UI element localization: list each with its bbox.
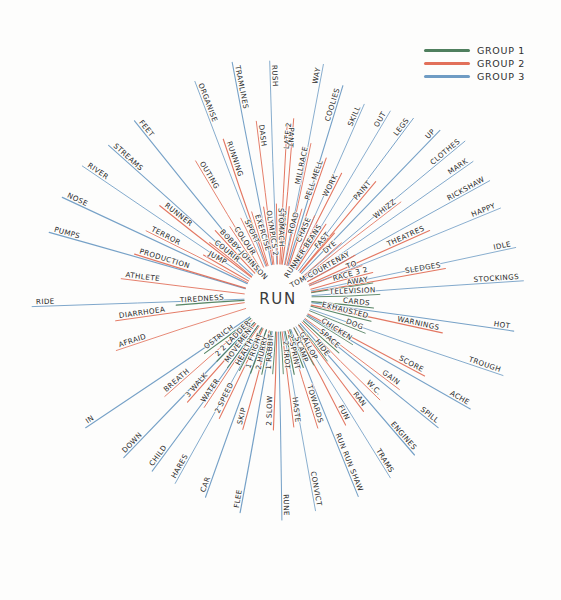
spoke-label: TRAMS	[374, 446, 396, 474]
spoke-label: RUSH	[270, 65, 280, 87]
spoke-label: ENGINES	[389, 420, 419, 452]
legend-label-group-3: GROUP 3	[477, 71, 525, 82]
spoke-label: NOSE	[66, 191, 90, 208]
diagram-canvas: RUN WAYCOOLIESSKILLOUTLEGSUPCLOTHESMARKR…	[0, 0, 561, 600]
spoke-label: WORK	[321, 173, 340, 199]
spoke-label: TROUGH	[467, 354, 503, 374]
spoke-label: PANT	[286, 127, 296, 148]
spoke-label: HASTE	[290, 396, 302, 423]
spoke-label: TIREDNESS	[179, 293, 225, 305]
spoke-label: STREAMS	[112, 141, 146, 172]
legend-label-group-1: GROUP 1	[477, 45, 525, 56]
spoke-line	[135, 254, 246, 288]
spoke-label: HAPPY	[470, 201, 497, 219]
legend-swatch-group-1	[424, 49, 470, 51]
spoke-label: FLEE	[232, 489, 244, 509]
radial-diagram-svg: RUN WAYCOOLIESSKILLOUTLEGSUPCLOTHESMARKR…	[0, 0, 561, 600]
legend: GROUP 1 GROUP 2 GROUP 3	[424, 44, 556, 83]
spoke-label: IN	[84, 413, 96, 425]
spoke-line	[305, 319, 399, 390]
spoke-label: RICKSHAW	[445, 175, 486, 203]
legend-swatch-group-2	[424, 62, 470, 64]
spoke-label: RUNE	[282, 494, 291, 516]
spoke-label: ACHE	[448, 388, 471, 407]
spoke-label: TERROR	[149, 224, 182, 247]
spoke-label: AFRAID	[117, 332, 147, 349]
legend-item-group-3: GROUP 3	[424, 70, 556, 83]
legend-label-group-2: GROUP 2	[477, 58, 525, 69]
spoke-label: RUNNING	[225, 140, 246, 178]
center-word-run: RUN	[259, 290, 296, 308]
legend-item-group-1: GROUP 1	[424, 44, 556, 57]
spoke-label: OUTING	[198, 160, 222, 191]
spoke-label: DIARRHOEA	[118, 305, 165, 320]
spoke-line	[121, 279, 244, 294]
spoke-line	[279, 332, 282, 520]
spoke-label: RUN RUN SHAW	[334, 432, 366, 493]
spoke-label: 2 SLOW	[264, 395, 274, 426]
spoke-label: RIDE	[36, 297, 55, 307]
spoke-label: TELEVISION	[328, 285, 376, 296]
legend-swatch-group-3	[424, 75, 470, 77]
spoke-label: TRAMLINES	[233, 64, 251, 110]
spoke-label: PUMPS	[53, 225, 81, 241]
spoke-label: COOLIES	[323, 87, 342, 123]
spoke-label: TOWARDS	[305, 383, 325, 424]
spoke-label: WAY	[310, 66, 322, 84]
spoke-label: MILLRACE	[293, 145, 310, 185]
legend-item-group-2: GROUP 2	[424, 57, 556, 70]
spoke-label: DOWN	[120, 430, 144, 454]
spoke-label: SKILL	[345, 104, 362, 127]
spoke-label: PRODUCTION	[138, 247, 191, 271]
spoke-label: UP	[423, 127, 437, 141]
spoke-label: IDLE	[492, 239, 511, 252]
spoke-label: STOCKINGS	[473, 272, 519, 284]
